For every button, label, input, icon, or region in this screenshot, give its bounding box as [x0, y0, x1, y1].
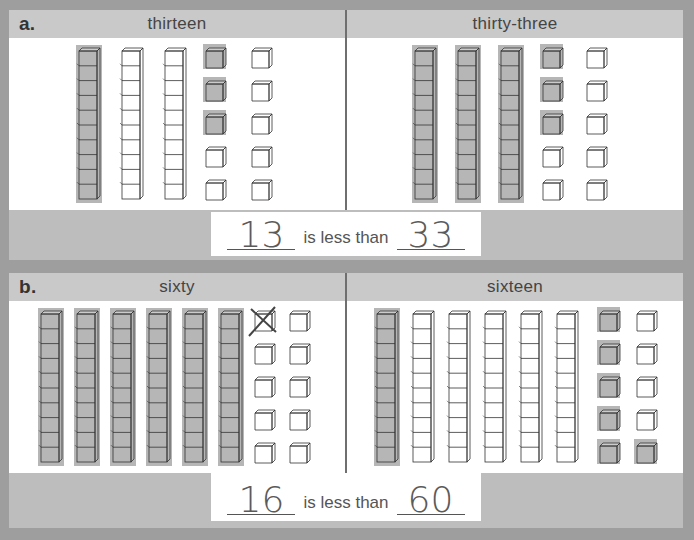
panel-header: thirty-three — [347, 10, 683, 38]
blocks-drawing — [347, 301, 682, 473]
answer-blank-first[interactable]: 13 — [227, 215, 295, 250]
number-word: sixty — [159, 277, 195, 297]
panel-sixty: b. sixty — [9, 273, 345, 473]
problem-b: b. sixty sixteen 16 is less than 60 — [9, 273, 683, 528]
blocks-drawing — [9, 38, 344, 210]
problem-letter: b. — [19, 276, 37, 298]
problem-a: a. thirteen thirty-three 13 is less than… — [9, 10, 683, 260]
number-word: thirty-three — [473, 14, 558, 34]
blocks-drawing — [347, 38, 682, 210]
base-ten-blocks — [347, 301, 683, 473]
panel-sixteen: sixteen — [345, 273, 683, 473]
problem-a-panels: a. thirteen thirty-three — [9, 10, 683, 212]
panel-header: sixteen — [347, 273, 683, 301]
number-word: thirteen — [147, 14, 206, 34]
answer-band: 13 is less than 33 — [9, 210, 683, 260]
panel-header: b. sixty — [9, 273, 345, 301]
answer-box: 13 is less than 33 — [211, 212, 481, 256]
answer-blank-second[interactable]: 60 — [397, 480, 465, 515]
panel-thirteen: a. thirteen — [9, 10, 345, 210]
number-word: sixteen — [487, 277, 543, 297]
answer-band: 16 is less than 60 — [9, 473, 683, 528]
comparison-text: is less than — [303, 493, 388, 515]
base-ten-blocks — [347, 38, 683, 210]
problem-b-panels: b. sixty sixteen — [9, 273, 683, 475]
answer-blank-second[interactable]: 33 — [397, 215, 465, 250]
base-ten-blocks — [9, 301, 345, 473]
comparison-text: is less than — [303, 228, 388, 250]
panel-header: a. thirteen — [9, 10, 345, 38]
answer-box: 16 is less than 60 — [211, 473, 481, 521]
base-ten-blocks — [9, 38, 345, 210]
answer-blank-first[interactable]: 16 — [227, 480, 295, 515]
panel-thirty-three: thirty-three — [345, 10, 683, 210]
problem-letter: a. — [19, 13, 35, 35]
blocks-drawing — [9, 301, 344, 473]
